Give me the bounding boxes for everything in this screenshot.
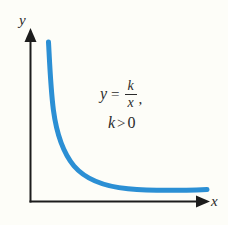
equation-comma: , [139,92,143,110]
equation-equals-sign: = [111,87,119,103]
x-axis-label: x [211,194,218,209]
hyperbola-figure: y x y = k x , k > 0 [0,0,228,225]
equation-line-2: k > 0 [108,115,142,132]
y-axis-arrowhead-icon [25,28,37,42]
equation-greater-than-sign: > [117,116,125,132]
y-axis-label: y [19,13,26,28]
equation-constant: k [108,115,115,132]
equation-denominator: x [125,95,135,110]
equation-line-1: y = k x , [100,79,142,110]
equation-annotation: y = k x , k > 0 [98,79,142,132]
equation-zero: 0 [128,115,136,132]
equation-numerator: k [125,79,135,94]
equation-fraction: k x [125,79,137,110]
equation-dependent-variable: y [100,86,107,103]
x-axis-arrowhead-icon [196,196,210,208]
